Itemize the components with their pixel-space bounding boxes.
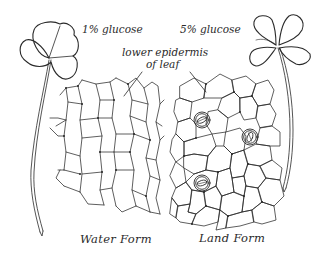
left-concentration-label: 1% glucose <box>82 24 143 35</box>
stoma-icon <box>194 175 210 191</box>
label-pointer-right <box>190 72 206 92</box>
stoma-icon <box>242 129 258 145</box>
land-form-cell-network <box>170 74 284 230</box>
diagram-canvas <box>0 0 324 261</box>
label-pointer-left <box>124 72 142 96</box>
water-form-cell-network <box>50 78 164 214</box>
right-concentration-label: 5% glucose <box>180 24 241 35</box>
land-form-leaf-icon <box>250 15 311 66</box>
land-form-label: Land Form <box>199 233 265 245</box>
land-form-stalk <box>278 48 293 192</box>
tissue-label-line1: lower epidermis <box>122 47 208 58</box>
water-form-label: Water Form <box>80 234 152 246</box>
tissue-label-line2: of leaf <box>146 59 179 70</box>
leaf-epidermis-diagram: 1% glucose 5% glucose lower epidermis of… <box>0 0 324 261</box>
water-form-stalk <box>31 60 51 236</box>
stoma-icon <box>194 112 210 128</box>
